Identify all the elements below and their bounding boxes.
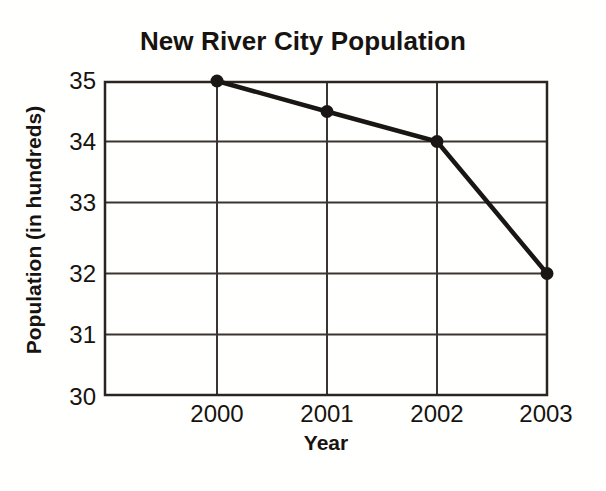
x-tick-label-2002: 2002 bbox=[392, 402, 482, 426]
x-tick-label-2001: 2001 bbox=[282, 402, 372, 426]
x-tick-label-2003: 2003 bbox=[501, 402, 591, 426]
x-axis-tick-labels: 2000 2001 2002 2003 bbox=[0, 0, 606, 491]
x-tick-label-2000: 2000 bbox=[172, 402, 262, 426]
x-axis-title: Year bbox=[104, 431, 548, 455]
chart-figure: New River City Population Population (in… bbox=[0, 0, 606, 491]
